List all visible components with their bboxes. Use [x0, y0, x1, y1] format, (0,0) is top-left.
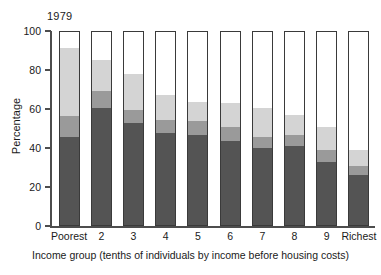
bar-segment-segment-4-white: [349, 33, 368, 150]
bar-segment-segment-2-medium: [156, 120, 175, 133]
bar-segment-segment-2-medium: [317, 150, 336, 162]
bar-segment-segment-3-light: [317, 127, 336, 150]
bar-segment-segment-2-medium: [221, 127, 240, 140]
y-tick-mark: [45, 225, 51, 227]
y-tick-mark: [45, 147, 51, 149]
bar-segment-segment-2-medium: [349, 166, 368, 176]
bar-segment-segment-1-dark: [60, 137, 79, 225]
y-tick-mark: [45, 108, 51, 110]
bar-segment-segment-3-light: [285, 115, 304, 135]
bar-segment-segment-4-white: [156, 33, 175, 94]
bar-segment-segment-4-white: [124, 33, 143, 74]
bar-segment-segment-1-dark: [92, 108, 111, 225]
bar-segment-segment-4-white: [188, 33, 207, 102]
bar-segment-segment-3-light: [156, 95, 175, 120]
bar-segment-segment-4-white: [253, 33, 272, 108]
y-axis-spine: [50, 31, 52, 227]
bar-5[interactable]: [187, 31, 208, 226]
chart-title: 1979: [47, 10, 72, 22]
y-tick-label: 40: [1, 142, 41, 154]
y-axis-label: Percentage: [10, 66, 22, 186]
bar-6[interactable]: [220, 31, 241, 226]
bar-segment-segment-1-dark: [253, 148, 272, 225]
stacked-bar-chart: 1979 Percentage 020406080100 Poorest2345…: [0, 0, 381, 275]
bar-segment-segment-3-light: [188, 102, 207, 121]
x-axis-label: Income group (tenths of individuals by i…: [0, 249, 381, 261]
y-tick-mark: [45, 30, 51, 32]
bar-richest[interactable]: [348, 31, 369, 226]
y-tick-label: 100: [1, 25, 41, 37]
x-tick-label-5: 5: [195, 230, 201, 242]
x-tick-label-8: 8: [292, 230, 298, 242]
bar-segment-segment-4-white: [285, 33, 304, 115]
plot-area: [53, 31, 375, 226]
bar-segment-segment-1-dark: [317, 162, 336, 225]
bar-segment-segment-2-medium: [253, 137, 272, 149]
bar-9[interactable]: [316, 31, 337, 226]
bar-7[interactable]: [252, 31, 273, 226]
x-tick-label-4: 4: [163, 230, 169, 242]
bar-4[interactable]: [155, 31, 176, 226]
bar-segment-segment-2-medium: [60, 116, 79, 137]
bar-segment-segment-4-white: [92, 33, 111, 60]
bar-segment-segment-3-light: [349, 150, 368, 165]
bar-segment-segment-4-white: [317, 33, 336, 127]
bar-segment-segment-1-dark: [156, 133, 175, 225]
bar-segment-segment-2-medium: [188, 121, 207, 134]
bar-segment-segment-1-dark: [349, 175, 368, 225]
x-tick-label-6: 6: [227, 230, 233, 242]
bar-segment-segment-3-light: [124, 74, 143, 109]
x-axis-spine: [50, 226, 375, 228]
bar-segment-segment-2-medium: [124, 110, 143, 123]
bar-segment-segment-2-medium: [285, 135, 304, 147]
bar-segment-segment-1-dark: [221, 141, 240, 225]
y-tick-label: 0: [1, 220, 41, 232]
x-tick-label-3: 3: [131, 230, 137, 242]
bar-poorest[interactable]: [59, 31, 80, 226]
bar-segment-segment-3-light: [60, 48, 79, 116]
y-tick-label: 60: [1, 103, 41, 115]
bar-2[interactable]: [91, 31, 112, 226]
x-tick-label-2: 2: [98, 230, 104, 242]
bar-segment-segment-4-white: [60, 33, 79, 47]
bar-3[interactable]: [123, 31, 144, 226]
y-tick-mark: [45, 186, 51, 188]
y-tick-label: 20: [1, 181, 41, 193]
bar-segment-segment-4-white: [221, 33, 240, 103]
bar-segment-segment-1-dark: [188, 135, 207, 225]
bar-segment-segment-3-light: [253, 108, 272, 137]
x-tick-label-richest: Richest: [341, 230, 376, 242]
bar-segment-segment-1-dark: [285, 146, 304, 225]
bar-segment-segment-1-dark: [124, 123, 143, 225]
y-tick-mark: [45, 69, 51, 71]
x-tick-label-poorest: Poorest: [51, 230, 87, 242]
x-tick-label-9: 9: [324, 230, 330, 242]
bar-segment-segment-2-medium: [92, 91, 111, 108]
x-tick-label-7: 7: [259, 230, 265, 242]
bar-segment-segment-3-light: [92, 60, 111, 91]
bar-8[interactable]: [284, 31, 305, 226]
bar-segment-segment-3-light: [221, 103, 240, 127]
y-tick-label: 80: [1, 64, 41, 76]
